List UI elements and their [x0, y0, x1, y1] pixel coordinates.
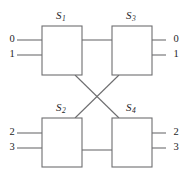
input-label-0: 0: [6, 34, 18, 44]
switch-label-s4: S4: [126, 101, 135, 113]
output-label-1: 1: [170, 49, 182, 59]
switch-label-s1: S1: [56, 9, 65, 21]
switch-box-s3[interactable]: [112, 26, 152, 75]
switch-label-s1-name: S: [56, 9, 62, 21]
switch-box-s2[interactable]: [42, 118, 82, 167]
input-label-1: 1: [6, 49, 18, 59]
switch-box-s1[interactable]: [42, 26, 82, 75]
switch-label-s2: S2: [56, 101, 65, 113]
network-diagram: [0, 0, 188, 181]
switch-label-s3-name: S: [126, 9, 132, 21]
switch-label-s3-subscript: 3: [132, 14, 136, 23]
switch-label-s1-subscript: 1: [62, 14, 66, 23]
input-wires: [17, 40, 42, 148]
figure-canvas: S1 S3 S2 S4 0 1 2 3 0 1 2 3: [0, 0, 188, 181]
input-label-2: 2: [6, 127, 18, 137]
switch-label-s3: S3: [126, 9, 135, 21]
crossed-links: [75, 75, 119, 118]
output-label-3: 3: [170, 142, 182, 152]
switch-label-s2-name: S: [56, 101, 62, 113]
switch-box-s4[interactable]: [112, 118, 152, 167]
output-label-0: 0: [170, 34, 182, 44]
straight-links: [82, 40, 112, 150]
output-label-2: 2: [170, 127, 182, 137]
input-label-3: 3: [6, 142, 18, 152]
switch-label-s2-subscript: 2: [62, 106, 66, 115]
switch-label-s4-subscript: 4: [132, 106, 136, 115]
switch-label-s4-name: S: [126, 101, 132, 113]
output-wires: [152, 40, 166, 148]
